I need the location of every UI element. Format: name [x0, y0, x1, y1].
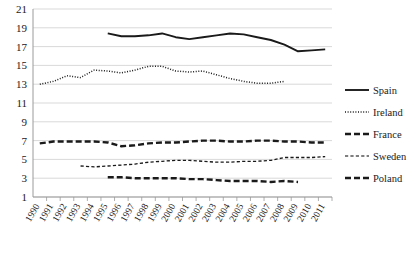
x-axis-tick-marks	[47, 197, 332, 201]
legend-label-poland[interactable]: Poland	[373, 173, 403, 184]
x-axis-tick-labels: 1990199119921993199419951996199719981999…	[23, 202, 327, 224]
y-axis-tick-labels: 13579111315171921	[16, 3, 28, 203]
y-tick-label: 11	[16, 97, 27, 109]
series-line-spain	[108, 33, 325, 51]
y-tick-label: 3	[22, 172, 28, 184]
y-tick-label: 17	[16, 41, 28, 53]
chart-legend: SpainIrelandFranceSwedenPoland	[345, 85, 407, 184]
series-line-sweden	[81, 157, 326, 167]
chart-canvas: 13579111315171921 1990199119921993199419…	[0, 0, 415, 259]
y-tick-label: 21	[16, 3, 27, 15]
y-tick-label: 15	[16, 59, 28, 71]
x-tick-label: 2011	[309, 202, 327, 223]
legend-label-spain[interactable]: Spain	[373, 85, 398, 96]
series-line-france	[40, 141, 325, 147]
series-line-ireland	[40, 66, 285, 84]
y-tick-label: 19	[16, 22, 28, 34]
y-tick-label: 13	[16, 78, 28, 90]
y-tick-label: 7	[22, 135, 28, 147]
y-tick-label: 9	[22, 116, 28, 128]
line-chart: 13579111315171921 1990199119921993199419…	[0, 0, 415, 259]
y-tick-label: 1	[22, 191, 28, 203]
legend-label-ireland[interactable]: Ireland	[373, 107, 403, 118]
y-tick-label: 5	[22, 153, 28, 165]
legend-label-sweden[interactable]: Sweden	[373, 151, 407, 162]
legend-label-france[interactable]: France	[373, 129, 402, 140]
